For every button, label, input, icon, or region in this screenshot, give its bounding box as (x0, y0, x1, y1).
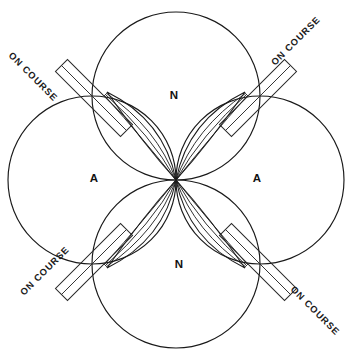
southeast-beam-divider (225, 229, 290, 294)
southwest-beam-divider (61, 229, 126, 294)
range-pattern-svg: N A A N ON COURSE ON COURSE ON COURSE ON… (0, 0, 353, 357)
northeast-beam-divider (225, 65, 290, 130)
course-label-southwest: ON COURSE (18, 244, 72, 298)
northeast-beam (219, 59, 296, 136)
northwest-beam (55, 59, 132, 136)
course-label-northeast: ON COURSE (269, 14, 323, 68)
petal-group-southeast (176, 180, 248, 268)
radio-range-diagram: N A A N ON COURSE ON COURSE ON COURSE ON… (0, 0, 353, 357)
petal-group-northwest (104, 92, 176, 180)
quadrant-label-south: N (175, 258, 183, 270)
course-label-southeast: ON COURSE (289, 284, 343, 338)
course-label-northwest: ON COURSE (7, 50, 61, 104)
southeast-beam (219, 223, 296, 300)
quadrant-label-east: A (253, 172, 261, 184)
southwest-beam (55, 223, 132, 300)
quadrant-label-north: N (170, 89, 178, 101)
northwest-beam-divider (61, 65, 126, 130)
petal-group-northeast (176, 92, 248, 180)
quadrant-label-west: A (90, 172, 98, 184)
petal-group-southwest (104, 180, 176, 268)
